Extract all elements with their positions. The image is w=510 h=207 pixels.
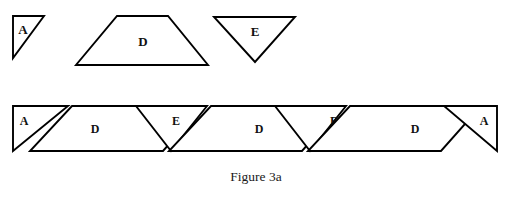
strip-triangle-a-right-label: A — [480, 114, 489, 128]
strip-trapezoid-d-2-label: D — [255, 122, 264, 136]
trapezoid-d-label: D — [138, 34, 147, 49]
strip-triangle-e-1-label: E — [172, 114, 180, 128]
strip-trapezoid-d-1-label: D — [91, 122, 100, 136]
tessellation-figure: A D E A D E — [0, 0, 510, 207]
figure-container: A D E A D E — [0, 0, 510, 207]
prototile-legend-row: A D E — [13, 16, 295, 65]
legend-shape-d: D — [76, 16, 208, 65]
legend-shape-e: E — [214, 17, 295, 62]
strip-trapezoid-d-3-label: D — [411, 122, 420, 136]
strip-triangle-a-left-label: A — [20, 114, 29, 128]
triangle-e-label: E — [251, 24, 260, 39]
legend-shape-a: A — [13, 16, 44, 58]
triangle-a-label: A — [18, 22, 28, 37]
tessellation-strip: A D E D E D — [13, 106, 497, 151]
figure-caption: Figure 3a — [230, 169, 281, 184]
